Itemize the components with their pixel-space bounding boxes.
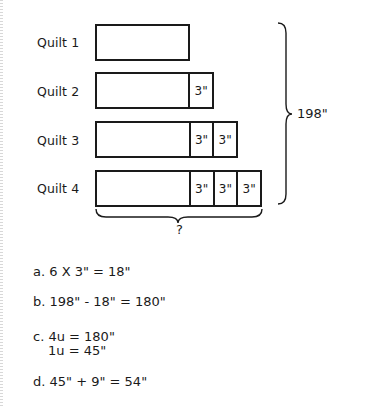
step-a: a. 6 X 3" = 18" — [33, 264, 131, 279]
step-d: d. 45" + 9" = 54" — [33, 374, 147, 389]
bottom-brace-icon — [96, 209, 262, 223]
step-c-line2: 1u = 45" — [48, 343, 106, 358]
right-brace-icon — [278, 23, 292, 204]
step-b: b. 198" - 18" = 180" — [33, 294, 166, 309]
total-length-label: 198" — [297, 106, 328, 121]
step-c-line1: c. 4u = 180" — [33, 329, 115, 344]
unknown-length-label: ? — [176, 222, 183, 237]
